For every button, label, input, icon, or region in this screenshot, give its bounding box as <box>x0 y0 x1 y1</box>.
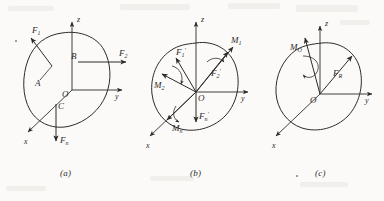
point-label-c: C <box>58 101 65 111</box>
moment-m2-curl-b <box>172 66 182 84</box>
origin-label-c: O <box>310 95 317 105</box>
point-a-leader <box>40 66 52 80</box>
force-f1-line-a <box>31 38 52 66</box>
panel-a: z y x O F1 A B F2 C Fn <box>15 15 127 146</box>
force-f1-prime-label-b: F1' <box>175 47 187 58</box>
panel-b: z y x O F1' F2' Fn' M1 M2 Mn <box>145 15 248 150</box>
axis-label-x-b: x <box>145 141 150 150</box>
axis-label-x-a: x <box>23 137 28 146</box>
moment-mn-line-b <box>167 92 196 120</box>
axis-label-y-c: y <box>364 96 369 105</box>
moment-m2-label-b: M2 <box>153 80 165 91</box>
axis-label-z-a: z <box>76 15 81 24</box>
moment-mn-label-b: Mn <box>171 123 183 134</box>
origin-label-a: O <box>62 89 69 99</box>
point-label-b: B <box>71 51 77 61</box>
axis-label-z-c: z <box>324 19 329 28</box>
force-f2-label-a: F2 <box>118 48 128 59</box>
moment-m1-line-b <box>196 47 233 92</box>
speck-c <box>296 175 298 177</box>
axis-label-x-c: x <box>271 141 276 150</box>
panel-caption-c: (c) <box>315 168 326 178</box>
origin-label-b: O <box>198 93 205 103</box>
moment-mo-line-c <box>305 38 320 94</box>
mechanics-figure: z y x O F1 A B F2 C Fn z y <box>0 0 384 201</box>
axis-label-y-a: y <box>114 92 119 101</box>
point-label-a: A <box>34 78 41 88</box>
moment-mn-curl-b <box>174 106 179 122</box>
rigid-body-outline-c <box>276 43 361 130</box>
speck-a <box>15 40 17 42</box>
axis-label-y-b: y <box>240 94 245 103</box>
moment-mo-label-c: MO <box>289 42 303 53</box>
axis-label-z-b: z <box>200 15 205 24</box>
panel-caption-a: (a) <box>60 168 71 178</box>
force-f1-label-a: F1 <box>31 25 41 36</box>
panel-caption-b: (b) <box>190 168 201 178</box>
force-fn-prime-label-b: Fn' <box>198 111 210 122</box>
moment-m1-label-b: M1 <box>230 35 242 46</box>
panel-c: z y x O MO FR <box>271 19 372 177</box>
force-fn-label-a: Fn <box>59 135 69 146</box>
